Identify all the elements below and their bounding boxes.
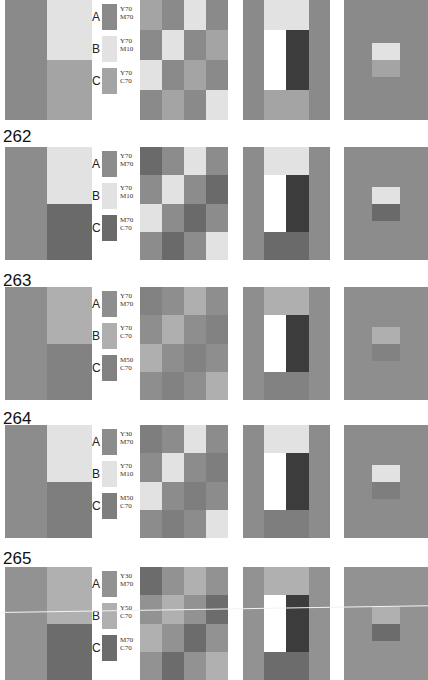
grid-cell-a bbox=[162, 482, 184, 510]
grid-cell-a bbox=[162, 344, 184, 372]
swatch-chip bbox=[102, 323, 117, 349]
grid-cell-b bbox=[206, 232, 228, 260]
swatch-c: CY70C70 bbox=[92, 68, 138, 94]
swatch-a: AY70M70 bbox=[92, 151, 138, 177]
field-color-c bbox=[47, 482, 92, 539]
small-square-color-b bbox=[372, 327, 400, 344]
small-square-color-b bbox=[372, 43, 400, 60]
swatch-chip bbox=[102, 493, 117, 519]
grid-cell-c bbox=[206, 453, 228, 481]
field-color-b bbox=[47, 567, 92, 624]
panel-centered-pair bbox=[344, 287, 428, 400]
white-block bbox=[264, 315, 286, 372]
field-color-a bbox=[5, 287, 47, 400]
grid-cell-c bbox=[184, 204, 206, 232]
swatch-letter: A bbox=[92, 577, 100, 591]
grid-cell-a bbox=[140, 90, 162, 120]
swatch-letter: C bbox=[92, 499, 101, 513]
grid-cell-c bbox=[206, 175, 228, 203]
band-color-b bbox=[264, 287, 309, 315]
panel-split-field bbox=[5, 147, 92, 260]
field-color-a bbox=[5, 567, 47, 680]
grid-cell-a bbox=[184, 453, 206, 481]
swatch-chip bbox=[102, 151, 117, 177]
panel-checker-grid bbox=[140, 425, 228, 538]
grid-cell-b bbox=[140, 60, 162, 90]
black-block bbox=[286, 175, 309, 232]
swatch-ink-code: Y70M70 bbox=[120, 292, 133, 308]
swatch-ink-code: M50C70 bbox=[120, 356, 133, 372]
panel-checker-grid bbox=[140, 567, 228, 680]
swatch-c: CM50C70 bbox=[92, 355, 138, 381]
grid-cell-a bbox=[162, 60, 184, 90]
grid-cell-a bbox=[140, 30, 162, 60]
small-square-color-c bbox=[372, 344, 400, 361]
panel-frame-with-white-black bbox=[243, 0, 330, 120]
grid-cell-a bbox=[206, 60, 228, 90]
panel-checker-grid bbox=[140, 0, 228, 120]
swatch-letter: C bbox=[92, 361, 101, 375]
row-number: 265 bbox=[3, 550, 31, 567]
grid-cell-b bbox=[140, 204, 162, 232]
grid-cell-b bbox=[206, 90, 228, 120]
field-color-c bbox=[47, 624, 92, 680]
black-block bbox=[286, 30, 309, 90]
grid-cell-c bbox=[140, 0, 162, 30]
swatch-chip bbox=[102, 355, 117, 381]
grid-cell-a bbox=[184, 90, 206, 120]
swatch-chip bbox=[102, 429, 117, 455]
grid-cell-b bbox=[140, 482, 162, 510]
swatch-letter: A bbox=[92, 10, 100, 24]
band-color-c bbox=[264, 652, 309, 680]
swatch-ink-code: Y70M70 bbox=[120, 5, 133, 21]
grid-cell-b bbox=[206, 510, 228, 538]
band-color-c bbox=[264, 372, 309, 400]
grid-cell-a bbox=[162, 147, 184, 175]
grid-cell-c bbox=[140, 287, 162, 315]
swatch-ink-code: M70C70 bbox=[120, 636, 133, 652]
swatch-c: CM50C70 bbox=[92, 493, 138, 519]
swatch-ink-code: Y70M10 bbox=[120, 37, 133, 53]
grid-cell-a bbox=[162, 287, 184, 315]
swatch-a: AY70M70 bbox=[92, 4, 138, 30]
grid-cell-c bbox=[162, 372, 184, 400]
band-color-c bbox=[264, 90, 309, 120]
swatch-chip bbox=[102, 36, 117, 62]
swatch-chip bbox=[102, 215, 117, 241]
grid-cell-b bbox=[162, 315, 184, 343]
swatch-chip bbox=[102, 571, 117, 597]
grid-cell-c bbox=[184, 624, 206, 652]
swatch-letter: C bbox=[92, 74, 101, 88]
field-color-c bbox=[47, 344, 92, 401]
grid-cell-c bbox=[162, 652, 184, 680]
swatch-ink-code: Y70M70 bbox=[120, 152, 133, 168]
grid-cell-c bbox=[162, 510, 184, 538]
grid-cell-b bbox=[162, 175, 184, 203]
panel-split-field bbox=[5, 425, 92, 538]
grid-cell-a bbox=[206, 482, 228, 510]
grid-cell-a bbox=[184, 510, 206, 538]
small-square-color-c bbox=[372, 624, 400, 641]
grid-cell-a bbox=[140, 372, 162, 400]
swatch-a: AY70M70 bbox=[92, 291, 138, 317]
field-color-b bbox=[47, 0, 92, 60]
field-color-a bbox=[5, 0, 47, 120]
grid-cell-b bbox=[184, 147, 206, 175]
grid-cell-c bbox=[140, 567, 162, 595]
swatch-ink-code: Y70C70 bbox=[120, 324, 132, 340]
grid-cell-b bbox=[184, 567, 206, 595]
swatch-b: BY50C70 bbox=[92, 603, 138, 629]
grid-cell-b bbox=[184, 0, 206, 30]
field-color-a bbox=[5, 147, 47, 260]
grid-cell-c bbox=[184, 482, 206, 510]
small-square-color-b bbox=[372, 465, 400, 482]
swatch-letter: B bbox=[92, 42, 100, 56]
grid-cell-a bbox=[162, 0, 184, 30]
field-color-b bbox=[47, 287, 92, 344]
grid-cell-a bbox=[184, 652, 206, 680]
grid-cell-b bbox=[140, 624, 162, 652]
swatch-chip bbox=[102, 603, 117, 629]
swatch-a: AY30M70 bbox=[92, 571, 138, 597]
grid-cell-b bbox=[184, 287, 206, 315]
panel-frame-with-white-black bbox=[243, 425, 330, 538]
